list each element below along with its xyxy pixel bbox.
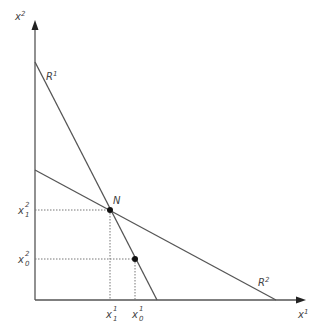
y-tick-x2-1-sub: 1 <box>25 211 29 219</box>
x-tick-x1-1: x <box>105 309 112 320</box>
x-tick-x1-1-sub: 1 <box>113 315 117 323</box>
y-axis-arrow-icon <box>32 20 39 30</box>
x-tick-x1-0: x <box>131 309 138 320</box>
y-tick-x2-1: x <box>17 205 24 216</box>
x-tick-x1-1-sup: 1 <box>113 305 117 313</box>
y-tick-x2-0-sup: 2 <box>25 250 30 258</box>
r1-label: R1 <box>46 70 57 82</box>
r1-line <box>35 62 157 300</box>
y-axis-label: x2 <box>14 10 26 22</box>
point-p0 <box>132 256 138 262</box>
x-axis-arrow-icon <box>296 297 306 304</box>
x-axis-label: x1 <box>297 308 308 320</box>
r2-line <box>35 170 276 300</box>
r2-label: R2 <box>258 276 270 288</box>
x-tick-x1-0-sub: 0 <box>139 315 144 323</box>
y-tick-x2-0-sub: 0 <box>25 260 30 268</box>
point-n-label: N <box>113 195 121 206</box>
y-tick-x2-0: x <box>17 254 24 265</box>
x-tick-x1-0-sup: 1 <box>139 305 143 313</box>
point-n <box>107 207 113 213</box>
reaction-curves-diagram: x2 x1 R1 R2 N x 2 1 x 2 0 x 1 1 x 1 0 <box>0 0 320 335</box>
diagram-canvas: x2 x1 R1 R2 N x 2 1 x 2 0 x 1 1 x 1 0 <box>0 0 320 335</box>
y-tick-x2-1-sup: 2 <box>25 201 30 209</box>
